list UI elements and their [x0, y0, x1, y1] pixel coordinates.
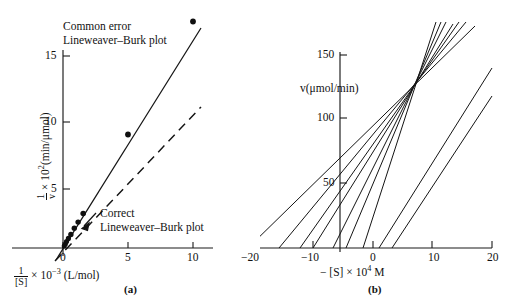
fan-line — [392, 96, 492, 248]
fan-line-group — [260, 22, 492, 248]
data-point — [68, 232, 73, 237]
x-axis-title-unit-a: (L/mol) — [64, 269, 100, 281]
x-tick-label-a-0: 0 — [60, 251, 66, 265]
y-tick-label-b-50: 50 — [323, 176, 335, 190]
x-tick-label-b-0: 0 — [370, 251, 376, 265]
panel-label-a: (a) — [124, 283, 137, 296]
x-axis-title-b: − [S] × 104 M — [320, 266, 384, 280]
y-tick-label-b-100: 100 — [317, 111, 334, 125]
x-tick-label-b-20: 20 — [487, 251, 499, 265]
y-axis-title-rest-a: × 10 — [39, 169, 51, 190]
panel-label-b: (b) — [368, 283, 381, 296]
fan-line — [379, 68, 492, 248]
figure-root: 0 5 10 5 10 15 1 v × 102(min/μmol) 1 [S]… — [0, 0, 521, 303]
y-axis-title-b: v(μmol/min) — [300, 82, 359, 96]
x-axis-title-a: 1 [S] × 10−3 (L/mol) — [14, 266, 99, 287]
x-axis-title-unit-b: M — [374, 266, 384, 278]
x-tick-label-a-5: 5 — [125, 251, 131, 265]
x-axis-title-rest-a: × 10 — [31, 269, 52, 281]
fan-line — [333, 22, 446, 248]
data-point — [80, 211, 86, 217]
y-tick-label-b-150: 150 — [317, 48, 334, 62]
x-axis-title-main-b: − [S] × 10 — [320, 266, 367, 278]
y-axis-title-exp-a: 2 — [37, 165, 46, 169]
data-point — [75, 219, 80, 224]
fan-line — [279, 22, 466, 248]
y-axis-title-a: 1 v × 102(min/μmol) — [36, 112, 57, 200]
data-point — [190, 19, 196, 25]
x-tick-label-b--20: −20 — [241, 251, 259, 265]
fan-line — [260, 26, 475, 248]
annotation-common-error-line1: Common error — [63, 20, 167, 34]
annotation-correct-line1: Correct — [100, 207, 204, 221]
x-axis-title-exp-b: 4 — [367, 264, 371, 273]
annotation-correct-line2: Lineweaver–Burk plot — [100, 221, 204, 235]
annotation-correct: Correct Lineweaver–Burk plot — [100, 207, 204, 234]
x-tick-label-b--10: −10 — [301, 251, 319, 265]
panel-b: −20 −10 0 10 20 50 100 150 v(μmol/min) −… — [260, 0, 521, 303]
y-axis-title-unit-a: (min/μmol) — [39, 112, 51, 165]
x-tick-label-b-10: 10 — [428, 251, 440, 265]
x-tick-label-a-10: 10 — [187, 251, 199, 265]
data-point — [125, 132, 131, 138]
fan-line — [346, 22, 441, 248]
panel-a: 0 5 10 5 10 15 1 v × 102(min/μmol) 1 [S]… — [0, 0, 260, 303]
fan-line — [363, 22, 436, 248]
x-axis-fraction-a: 1 [S] — [14, 266, 28, 287]
y-tick-label-a-15: 15 — [45, 49, 57, 63]
x-axis-title-exp-a: −3 — [52, 267, 61, 276]
y-axis-fraction-a: 1 v — [36, 193, 57, 200]
panel-b-plot — [260, 0, 521, 303]
series-correct-line — [55, 107, 201, 261]
annotation-common-error: Common error Lineweaver–Burk plot — [63, 20, 167, 47]
data-point — [72, 226, 77, 231]
annotation-common-error-line2: Lineweaver–Burk plot — [63, 34, 167, 48]
